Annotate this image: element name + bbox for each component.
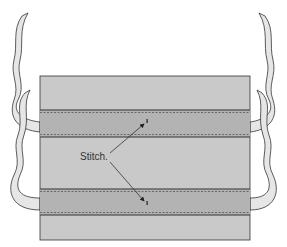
top-casing-band — [40, 110, 250, 137]
left-ribbons — [11, 13, 40, 210]
bottom-casing-band — [40, 189, 250, 215]
right-ribbons — [250, 13, 276, 210]
stitch-mark-bottom — [147, 201, 148, 205]
stitch-label: Stitch. — [80, 151, 108, 162]
stitch-diagram — [0, 0, 287, 247]
stitch-mark-top — [147, 119, 148, 123]
